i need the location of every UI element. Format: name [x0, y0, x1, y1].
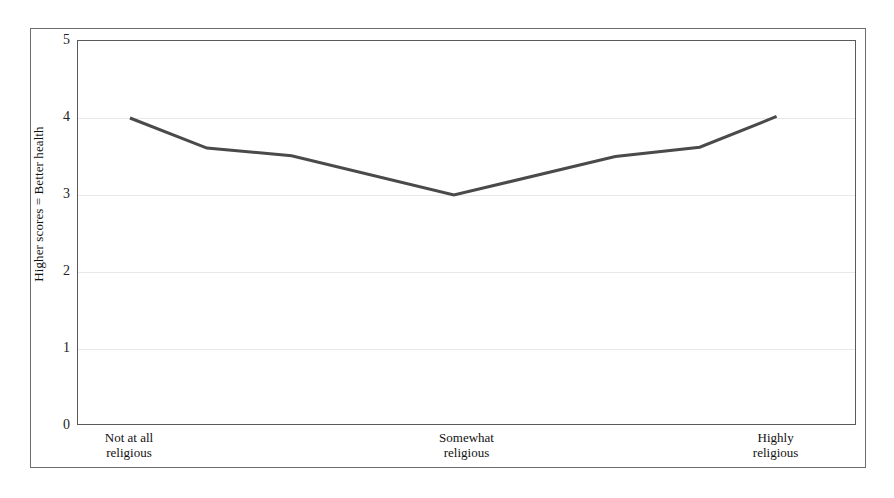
- x-axis-category-labels: Not at all religiousSomewhat religiousHi…: [77, 430, 856, 470]
- y-tick-label-5: 5: [40, 33, 70, 47]
- y-tick-label-1: 1: [40, 341, 70, 355]
- chart-figure: 012345 Higher scores = Better health Not…: [0, 0, 894, 498]
- data-line-layer: [78, 41, 857, 426]
- x-axis-label-2: Highly religious: [696, 430, 856, 460]
- plot-area: [77, 40, 856, 425]
- line-series-self-rated-health: [130, 116, 777, 195]
- x-axis-label-0: Not at all religious: [49, 430, 209, 460]
- x-axis-label-1: Somewhat religious: [387, 430, 547, 460]
- y-axis-title: Higher scores = Better health: [31, 99, 47, 309]
